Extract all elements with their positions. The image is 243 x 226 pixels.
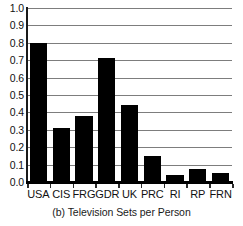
gridline <box>27 95 232 96</box>
y-axis-tick-label: 0.2 <box>0 142 24 153</box>
bar-cis <box>53 128 70 182</box>
y-axis-tick-label: 0.4 <box>0 107 24 118</box>
y-axis-line <box>26 7 28 183</box>
television-sets-bar-chart: 1.00.90.80.70.60.50.40.30.20.10.0 (b) Te… <box>0 0 243 226</box>
gridline <box>27 60 232 61</box>
gridline <box>27 8 232 9</box>
y-axis-tick-label: 0.9 <box>0 20 24 31</box>
y-axis-tick-labels: 1.00.90.80.70.60.50.40.30.20.10.0 <box>0 0 24 226</box>
gridline <box>27 78 232 79</box>
x-axis-baseline <box>26 181 233 184</box>
chart-caption: (b) Television Sets per Person <box>0 206 243 218</box>
x-axis-label-uk: UK <box>118 188 141 201</box>
x-axis-tick <box>232 184 234 188</box>
y-axis-tick-label: 0.1 <box>0 160 24 171</box>
y-axis-tick-label: 0.5 <box>0 90 24 101</box>
gridline <box>27 25 232 26</box>
y-axis-tick-label: 0.3 <box>0 125 24 136</box>
y-axis-tick-label: 0.8 <box>0 38 24 49</box>
bar-uk <box>121 105 138 182</box>
plot-area <box>27 8 232 182</box>
x-axis-label-ri: RI <box>164 188 187 201</box>
y-axis-tick-label: 0.0 <box>0 177 24 188</box>
x-axis-label-rp: RP <box>186 188 209 201</box>
bar-prc <box>144 156 161 182</box>
x-axis-label-frg: FRG <box>73 188 96 201</box>
bar-usa <box>30 43 47 182</box>
x-axis-label-usa: USA <box>27 188 50 201</box>
y-axis-tick-label: 0.7 <box>0 55 24 66</box>
x-axis-label-frn: FRN <box>209 188 232 201</box>
x-axis-label-cis: CIS <box>50 188 73 201</box>
y-axis-tick-label: 0.6 <box>0 73 24 84</box>
bar-gdr <box>98 58 115 182</box>
y-axis-tick-label: 1.0 <box>0 3 24 14</box>
bar-frg <box>75 116 92 182</box>
gridline <box>27 43 232 44</box>
x-axis-label-gdr: GDR <box>95 188 118 201</box>
x-axis-label-prc: PRC <box>141 188 164 201</box>
